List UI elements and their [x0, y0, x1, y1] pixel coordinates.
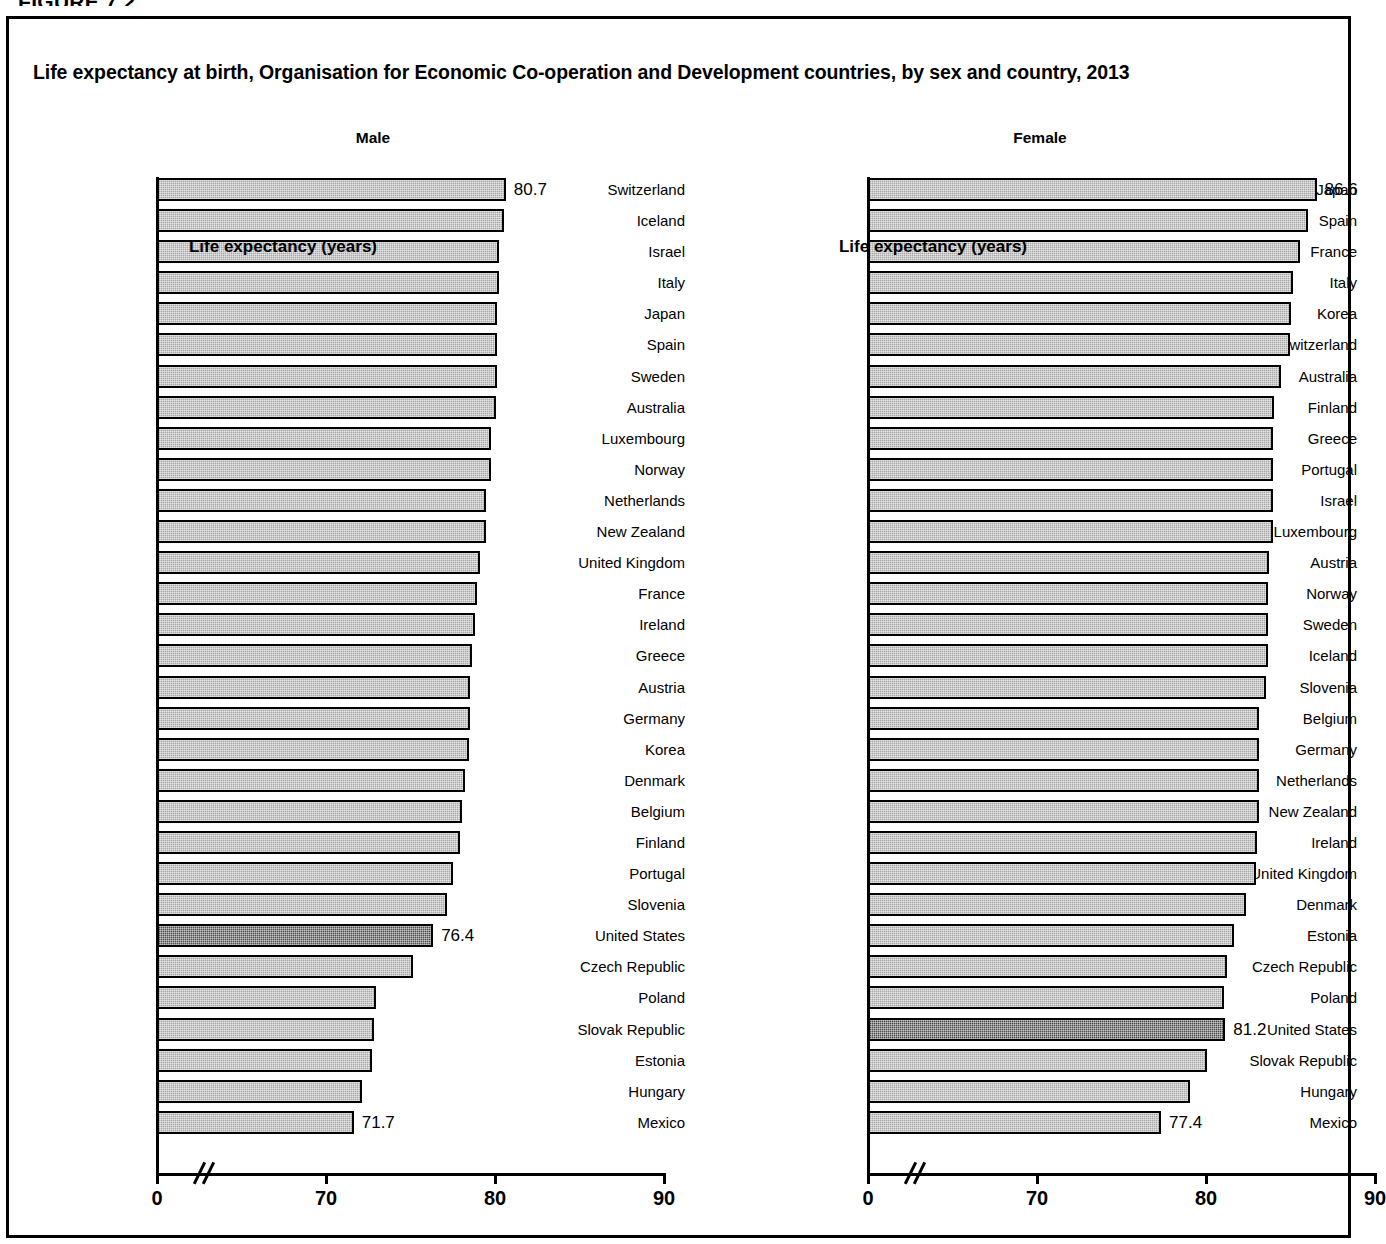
table-row: United Kingdom [15, 550, 691, 581]
bar-track [156, 954, 691, 979]
bar-track [867, 395, 1363, 420]
table-row: Netherlands [15, 488, 691, 519]
table-row: Slovenia [15, 892, 691, 923]
x-axis-title-male: Life expectancy (years) [0, 237, 621, 257]
axis-tick [663, 1173, 666, 1184]
table-row: Austria [687, 550, 1363, 581]
bar [867, 396, 1274, 419]
bar-value-label: 77.4 [1161, 1111, 1202, 1134]
table-row: Switzerland80.7 [15, 177, 691, 208]
x-axis-title-female: Life expectancy (years) [595, 237, 1271, 257]
bar-track [867, 1048, 1363, 1073]
table-row: Estonia [687, 923, 1363, 954]
bar [156, 1018, 374, 1041]
bar-track [156, 706, 691, 731]
bar [156, 676, 470, 699]
bar [156, 955, 413, 978]
bar [867, 893, 1246, 916]
bar-value-label: 86.6 [1317, 178, 1358, 201]
bar-value-label: 76.4 [433, 924, 474, 947]
table-row: Israel [687, 488, 1363, 519]
bar-track [156, 395, 691, 420]
table-row: Ireland [15, 612, 691, 643]
bar-track [156, 364, 691, 389]
bar [867, 676, 1266, 699]
bar [156, 613, 475, 636]
bar-track [156, 830, 691, 855]
bar-track [867, 488, 1363, 513]
bar-track [867, 737, 1363, 762]
table-row: Greece [15, 643, 691, 674]
bar-highlight [867, 1018, 1225, 1041]
table-row: Slovak Republic [15, 1017, 691, 1048]
axis-tick-label: 0 [151, 1187, 162, 1210]
bar-track [867, 550, 1363, 575]
bar [156, 271, 499, 294]
bar-track [156, 208, 691, 233]
table-row: Ireland [687, 830, 1363, 861]
table-row: Mexico71.7 [15, 1110, 691, 1141]
bar [156, 582, 477, 605]
bar-track [156, 519, 691, 544]
bar [867, 924, 1234, 947]
bar-track [156, 270, 691, 295]
table-row: France [15, 581, 691, 612]
table-row: Netherlands [687, 768, 1363, 799]
bar [156, 396, 496, 419]
table-row: New Zealand [15, 519, 691, 550]
axis-tick [1036, 1173, 1039, 1184]
plot-male: Switzerland80.7IcelandIsraelItalyJapanSp… [15, 177, 691, 1187]
bar-track [867, 208, 1363, 233]
bar-track [867, 830, 1363, 855]
bar-track [867, 1079, 1363, 1104]
table-row: Poland [687, 985, 1363, 1016]
table-row: Australia [687, 364, 1363, 395]
table-row: Sweden [687, 612, 1363, 643]
axis-tick-label: 90 [1364, 1187, 1386, 1210]
bar-track [867, 675, 1363, 700]
axis-line [867, 1173, 1374, 1176]
figure-title: Life expectancy at birth, Organisation f… [33, 61, 1130, 84]
table-row: Finland [687, 395, 1363, 426]
table-row: Belgium [15, 799, 691, 830]
axis-tick-label: 80 [1195, 1187, 1217, 1210]
bar [156, 707, 470, 730]
bar-track [867, 954, 1363, 979]
table-row: Finland [15, 830, 691, 861]
bar-track [156, 799, 691, 824]
panel-heading-male: Male [15, 129, 691, 147]
bar [156, 427, 491, 450]
bar-highlight [156, 924, 433, 947]
table-row: Denmark [687, 892, 1363, 923]
table-row: Mexico77.4 [687, 1110, 1363, 1141]
axis-spine [156, 177, 159, 1173]
bar-track [156, 1017, 691, 1042]
table-row: Korea [15, 737, 691, 768]
bar [867, 520, 1273, 543]
bar-track [867, 612, 1363, 637]
bar-track [867, 426, 1363, 451]
table-row: Spain [15, 332, 691, 363]
table-row: Australia [15, 395, 691, 426]
bar-track [867, 457, 1363, 482]
table-row: Germany [15, 706, 691, 737]
bar [156, 302, 497, 325]
plot-female: Japan86.6SpainFranceItalyKoreaSwitzerlan… [687, 177, 1363, 1187]
bar-track: 77.4 [867, 1110, 1363, 1135]
table-row: Hungary [687, 1079, 1363, 1110]
panel-heading-female: Female [687, 129, 1363, 147]
figure-frame: Life expectancy at birth, Organisation f… [6, 16, 1351, 1238]
bar [867, 738, 1259, 761]
table-row: Germany [687, 737, 1363, 768]
bar-value-label: 81.2 [1225, 1018, 1266, 1041]
bar [867, 302, 1291, 325]
bar [156, 831, 460, 854]
bar-track [867, 581, 1363, 606]
table-row: Poland [15, 985, 691, 1016]
bar-track [156, 581, 691, 606]
table-row: Norway [687, 581, 1363, 612]
bar-track [867, 799, 1363, 824]
bar [867, 1111, 1161, 1134]
figure-number: FIGURE 7.2 [18, 0, 135, 6]
bar-track [867, 861, 1363, 886]
